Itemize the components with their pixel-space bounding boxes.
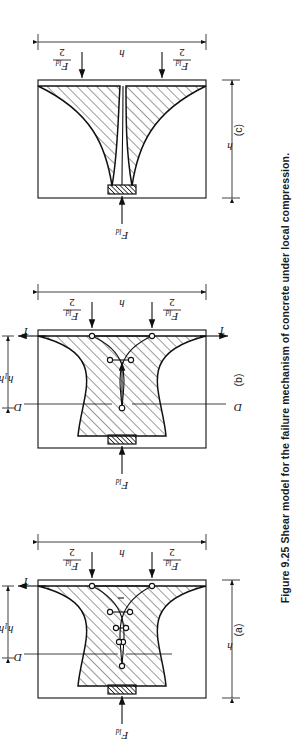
- height-dim-label-c: h: [119, 48, 125, 60]
- svg-text:h: h: [227, 141, 233, 153]
- width-dim-label-c: h: [227, 141, 233, 153]
- truss-node-b-1: [128, 357, 133, 362]
- svg-text:2: 2: [59, 47, 65, 59]
- inner-dim-label-a: h1h: [0, 621, 13, 636]
- panel-c-drawing: Fld Fld 2 Fld 2: [0, 22, 248, 238]
- svg-text:T: T: [22, 326, 29, 338]
- svg-text:h1h: h1h: [0, 371, 13, 386]
- svg-text:2: 2: [69, 547, 75, 559]
- panel-b-label: (b): [232, 374, 244, 387]
- bearing-plate-b: [108, 435, 136, 444]
- truss-node-a-0: [119, 663, 124, 668]
- failure-wedge-a: [38, 586, 206, 686]
- truss-node-b-2: [107, 357, 112, 362]
- panel-a-label: (a): [232, 624, 244, 637]
- tie-label-b-bottom: T: [218, 325, 225, 337]
- svg-text:2: 2: [169, 297, 175, 309]
- strut-label-b-bottom: D: [234, 402, 243, 414]
- svg-text:Fld: Fld: [115, 727, 129, 742]
- panel-b: Fld Fld 2 Fld 2: [0, 272, 248, 488]
- svg-text:T: T: [22, 576, 29, 588]
- panel-c-label: (c): [232, 124, 244, 136]
- figure-caption: Figure 9.25 Shear model for the failure …: [279, 0, 291, 756]
- tie-label-b-top: T: [22, 326, 29, 338]
- panel-c: Fld Fld 2 Fld 2: [0, 22, 248, 238]
- reaction-label-b-top: Fld 2: [63, 297, 81, 323]
- bearing-plate-a: [108, 685, 136, 694]
- svg-text:D: D: [234, 402, 243, 414]
- truss-node-a-2: [116, 639, 121, 644]
- svg-text:D: D: [14, 652, 23, 664]
- truss-node-a-7: [89, 583, 94, 588]
- svg-text:h1h: h1h: [0, 621, 13, 636]
- svg-text:D: D: [14, 402, 23, 414]
- svg-text:h: h: [119, 298, 125, 310]
- figure-page: Fld Fld 2 Fld: [0, 0, 293, 756]
- truss-node-a-3: [123, 625, 128, 630]
- svg-text:h: h: [119, 548, 125, 560]
- inner-dim-label-b: h1h: [0, 371, 13, 386]
- bearing-plate-c: [108, 185, 136, 194]
- strut-label-b-top: D: [14, 402, 23, 414]
- truss-node-b-3: [89, 333, 94, 338]
- failure-wedge-c-lower: [126, 86, 206, 186]
- svg-text:Fld: Fld: [115, 477, 129, 492]
- reaction-label-b-bottom: Fld 2: [163, 297, 181, 323]
- truss-node-a-4: [113, 625, 118, 630]
- svg-text:h: h: [227, 641, 233, 653]
- failure-wedge-c-upper: [38, 86, 120, 186]
- truss-node-a-6: [107, 609, 112, 614]
- svg-text:h: h: [119, 48, 125, 60]
- load-label-c: Fld: [115, 227, 129, 242]
- panel-b-drawing: Fld Fld 2 Fld 2: [0, 272, 248, 488]
- truss-node-a-5: [127, 609, 132, 614]
- panel-a-drawing: Fld Fld 2 Fld: [0, 522, 248, 738]
- reaction-label-a-bottom: Fld 2: [163, 547, 181, 573]
- reaction-label-c-top: Fld 2: [53, 47, 71, 73]
- load-label-a: Fld: [115, 727, 129, 742]
- height-dim-label-a: h: [119, 548, 125, 560]
- tie-label-a: T: [22, 576, 29, 588]
- outer-dim-label-a: h: [227, 641, 233, 653]
- splitting-crack-c: [122, 86, 123, 185]
- panel-a: Fld Fld 2 Fld: [0, 522, 248, 738]
- svg-text:2: 2: [169, 547, 175, 559]
- svg-text:Fld: Fld: [115, 227, 129, 242]
- load-label-b: Fld: [115, 477, 129, 492]
- reaction-label-c-bottom: Fld 2: [173, 47, 191, 73]
- reaction-label-a-top: Fld 2: [63, 547, 81, 573]
- svg-text:T: T: [218, 325, 225, 337]
- truss-node-b-0: [119, 405, 125, 411]
- rotated-figure-container: Fld Fld 2 Fld: [0, 0, 293, 756]
- svg-text:2: 2: [69, 297, 75, 309]
- svg-text:2: 2: [179, 47, 185, 59]
- strut-label-a: D: [14, 652, 23, 664]
- truss-node-b-4: [149, 333, 154, 338]
- truss-node-a-8: [149, 583, 154, 588]
- height-dim-label-b: h: [119, 298, 125, 310]
